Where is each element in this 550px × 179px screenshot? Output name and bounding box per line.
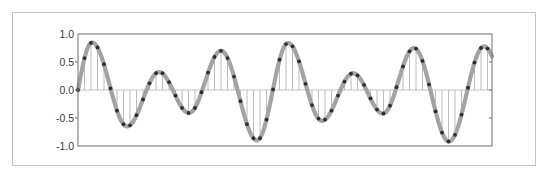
sample-point bbox=[408, 49, 412, 53]
sample-point bbox=[213, 55, 217, 59]
sample-point bbox=[330, 109, 334, 113]
stem-chart: 1.00.50.0-0.5-1.0 bbox=[0, 0, 550, 179]
sample-point bbox=[193, 106, 197, 110]
figure: 1.00.50.0-0.5-1.0 bbox=[0, 0, 550, 179]
y-tick-label: -1.0 bbox=[56, 140, 74, 152]
sample-point bbox=[382, 112, 386, 116]
sample-point bbox=[297, 60, 301, 64]
sample-point bbox=[180, 106, 184, 110]
sample-stems bbox=[78, 43, 488, 142]
sample-point bbox=[206, 71, 210, 75]
sample-point bbox=[154, 71, 158, 75]
sample-point bbox=[427, 83, 431, 87]
sample-point bbox=[167, 80, 171, 84]
sample-point bbox=[128, 123, 132, 127]
y-axis-tick-labels: 1.00.50.0-0.5-1.0 bbox=[56, 28, 74, 152]
sample-point bbox=[141, 98, 145, 102]
sample-point bbox=[447, 140, 451, 144]
sample-point bbox=[122, 122, 126, 126]
sample-point bbox=[473, 61, 477, 65]
sample-points bbox=[76, 41, 489, 143]
sample-point bbox=[109, 86, 113, 90]
sample-point bbox=[161, 71, 165, 75]
sample-point bbox=[219, 49, 223, 53]
sample-point bbox=[187, 111, 191, 115]
sample-point bbox=[460, 113, 464, 117]
sample-point bbox=[349, 72, 353, 76]
y-tick-label: -0.5 bbox=[56, 112, 74, 124]
sample-point bbox=[421, 59, 425, 63]
sample-point bbox=[395, 85, 399, 89]
sample-point bbox=[479, 46, 483, 50]
sample-point bbox=[466, 86, 470, 90]
sample-point bbox=[317, 117, 321, 121]
sample-point bbox=[453, 133, 457, 137]
sample-point bbox=[362, 83, 366, 87]
sample-point bbox=[323, 118, 327, 122]
sample-point bbox=[135, 113, 139, 117]
sample-point bbox=[375, 108, 379, 112]
sample-point bbox=[245, 122, 249, 126]
sample-point bbox=[232, 75, 236, 79]
sample-point bbox=[434, 109, 438, 113]
sample-point bbox=[486, 47, 490, 51]
sample-point bbox=[278, 58, 282, 62]
sample-point bbox=[356, 74, 360, 78]
sample-point bbox=[343, 80, 347, 84]
sample-point bbox=[239, 99, 243, 103]
sample-point bbox=[401, 65, 405, 69]
signal-curve bbox=[78, 42, 492, 141]
sample-point bbox=[369, 97, 373, 101]
sample-point bbox=[102, 62, 106, 66]
sample-point bbox=[414, 47, 418, 51]
sample-point bbox=[83, 56, 87, 60]
sample-point bbox=[258, 136, 262, 140]
sample-point bbox=[115, 109, 119, 113]
y-tick-label: 0.5 bbox=[59, 56, 74, 68]
sample-point bbox=[148, 81, 152, 85]
sample-point bbox=[388, 104, 392, 108]
y-tick-label: 1.0 bbox=[59, 28, 74, 40]
sample-point bbox=[310, 103, 314, 107]
sample-point bbox=[252, 136, 256, 140]
sample-point bbox=[200, 90, 204, 94]
sample-point bbox=[265, 118, 269, 122]
sample-point bbox=[291, 44, 295, 48]
sample-point bbox=[174, 94, 178, 98]
sample-point bbox=[284, 42, 288, 46]
sample-point bbox=[96, 46, 100, 50]
sample-point bbox=[271, 88, 275, 92]
sample-point bbox=[304, 82, 308, 86]
sample-point bbox=[440, 131, 444, 135]
sample-point bbox=[89, 41, 93, 45]
sample-point bbox=[226, 56, 230, 60]
y-tick-label: 0.0 bbox=[59, 84, 74, 96]
sample-point bbox=[336, 94, 340, 98]
